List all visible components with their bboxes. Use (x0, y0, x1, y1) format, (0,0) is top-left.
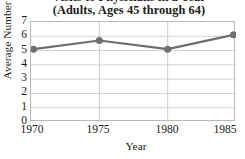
x-tick-label: 1985 (205, 123, 245, 136)
y-tick-label: 4 (5, 58, 27, 69)
horizontal-gridlines (31, 36, 236, 107)
plot-area (30, 21, 235, 121)
chart-subtitle: (Adults, Ages 45 through 64) (18, 4, 240, 17)
y-axis-tick-labels: 7 6 5 4 3 2 1 0 (0, 21, 27, 121)
x-axis-label: Year (30, 140, 242, 152)
vertical-gridlines (99, 22, 167, 122)
plot-svg (31, 22, 236, 122)
y-tick-label: 7 (5, 15, 27, 26)
y-tick-label: 6 (5, 29, 27, 40)
x-tick-label: 1975 (78, 123, 118, 136)
data-point (31, 46, 37, 53)
y-tick-label: 2 (5, 86, 27, 97)
chart-figure: Visits to Physicians in a Year (Adults, … (0, 0, 245, 159)
data-point (96, 37, 103, 44)
data-point (230, 31, 236, 38)
x-tick-label: 1980 (147, 123, 187, 136)
data-point (164, 46, 171, 53)
y-tick-label: 3 (5, 72, 27, 83)
y-tick-label: 1 (5, 101, 27, 112)
data-line (34, 35, 234, 49)
x-tick-label: 1970 (12, 123, 52, 136)
x-axis-tick-labels: 1970 1975 1980 1985 (0, 123, 245, 137)
y-tick-label: 5 (5, 44, 27, 55)
chart-title-block: Visits to Physicians in a Year (Adults, … (18, 0, 240, 17)
